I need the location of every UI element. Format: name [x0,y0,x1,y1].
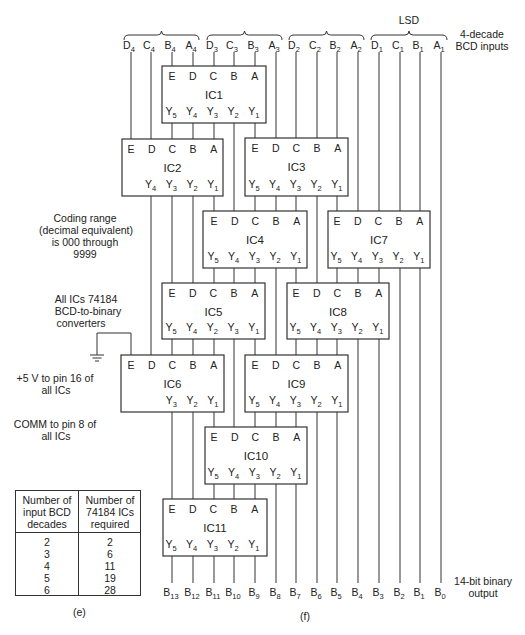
ic-input-pin: B [231,70,238,82]
ic-name: IC3 [288,161,306,173]
header-line: Number of [16,494,78,506]
ic-name: IC9 [288,378,306,390]
ic-input-pin: D [231,431,239,443]
ic-input-pin: C [169,359,177,371]
output-label-line1: 14-bit binary [454,575,513,587]
inputs-label-line2: BCD inputs [455,40,508,52]
table-cell: 2 [16,536,78,548]
ic-input-pin: B [231,503,238,515]
ic-input-pin: B [190,143,197,155]
ic-input-pin: E [168,503,175,515]
ic-input-pin: A [375,287,382,299]
table-cell: 2 [79,536,141,548]
ic-input-pin: E [210,431,217,443]
ic-input-pin: C [334,287,342,299]
ic-name: IC11 [203,522,226,534]
table-cell: 28 [79,584,141,596]
output-label: B3 [372,586,383,601]
table-cell: 11 [79,560,141,572]
ic-input-pin: D [189,287,197,299]
ic-ic6: EDCBAIC6Y3Y2Y1 [121,355,224,412]
ic-input-pin: C [210,503,218,515]
ic-input-pin: D [189,503,197,515]
note-line: COMM to pin 8 of [14,418,96,430]
input-label: B2 [329,39,340,54]
input-label: B3 [247,39,258,54]
ic-input-pin: E [210,215,217,227]
input-label: D2 [288,39,300,54]
ic-input-pin: A [251,287,258,299]
ic-input-pin: E [168,287,175,299]
ic-ic2: EDCBAIC2Y4Y3Y2Y1 [122,139,223,196]
ic-input-pin: B [314,359,321,371]
ic-input-pin: B [355,287,362,299]
ic-input-pin: C [210,287,218,299]
ground-icon [90,355,104,361]
table-cell: 5 [16,572,78,584]
ic-input-pin: E [251,142,258,154]
output-label: B10 [225,586,240,601]
header-line: required [79,518,141,530]
output-label: B9 [248,586,259,601]
note-line: 9999 [73,248,97,260]
note-line: all ICs [41,384,70,396]
header-line: Number of [79,494,141,506]
ic-input-pin: B [273,215,280,227]
ic-input-pin: E [127,143,134,155]
ic-input-pin: D [354,215,362,227]
table-header-decades: Number of input BCD decades [16,494,78,530]
input-label: C3 [226,39,238,54]
ic-input-pin: A [293,215,300,227]
input-label: D1 [371,39,383,54]
ic-input-pin: C [252,215,260,227]
output-label: B8 [269,586,280,601]
output-label: B7 [289,586,300,601]
note-line: Coding range [53,212,116,224]
note-line: All ICs 74184 [55,293,118,305]
ic-name: IC5 [205,306,223,318]
output-label: B2 [393,586,404,601]
ic-input-pin: C [169,143,177,155]
ic-input-pin: D [148,143,156,155]
header-line: 74184 ICs [79,506,141,518]
ic-input-pin: C [210,70,218,82]
power-note: +5 V to pin 16 of all ICs [17,372,94,396]
ic-input-pin: B [273,431,280,443]
ic-input-pin: B [314,142,321,154]
note-line: +5 V to pin 16 of [17,372,94,384]
table-cell: 3 [16,548,78,560]
ic-ic9: EDCBAIC9Y5Y4Y3Y2Y1 [245,355,348,412]
input-label: A3 [268,39,279,54]
input-label: B1 [412,39,423,54]
input-label: A1 [433,39,444,54]
coding-range-note: Coding range (decimal equivalent) is 000… [39,212,133,260]
input-label: D3 [206,39,218,54]
table-column-ics: 2 6 11 19 28 [79,536,141,596]
ic-ic4: EDCBAIC4Y5Y4Y3Y2Y1 [203,211,307,268]
table-cell: 6 [79,548,141,560]
ic-input-pin: A [334,359,341,371]
bcd-input-labels: D4C4B4A4D3C3B3A3D2C2B2A2D1C1B1A1 [123,39,444,54]
ic-name: IC6 [164,378,182,390]
output-label: B5 [330,586,341,601]
table-header-ics: Number of 74184 ICs required [79,494,141,530]
ic-input-pin: B [231,287,238,299]
ic-ic10: EDCBAIC10Y5Y4Y3Y2Y1 [205,427,307,484]
caption-e: (e) [73,606,86,618]
header-line: input BCD [16,506,78,518]
output-label: B0 [434,586,445,601]
ic-input-pin: A [251,503,258,515]
ic-ic8: EDCBAIC8Y5Y4Y3Y2Y1 [287,283,389,339]
inputs-label-line1: 4-decade [460,28,504,40]
ic-input-pin: E [333,215,340,227]
ic-ic1: EDCBAIC1Y5Y4Y3Y2Y1 [162,66,266,123]
ic-input-pin: D [313,287,321,299]
ic-name: IC10 [244,450,268,462]
ic-input-pin: E [127,359,134,371]
ic-input-pin: E [292,287,299,299]
ic-ic5: EDCBAIC5Y5Y4Y2Y3Y1 [162,283,265,339]
input-label: B4 [164,39,175,54]
note-line: is 000 through [52,236,119,248]
ic-input-pin: B [190,359,197,371]
table-column-decades: 2 3 4 5 6 [16,536,78,596]
